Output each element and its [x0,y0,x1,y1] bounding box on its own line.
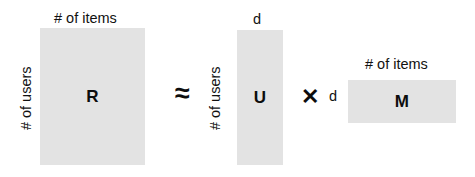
matrix-r-letter: R [86,88,98,105]
r-row-dimension-label: # of users [19,61,34,135]
m-column-dimension-label: # of items [365,57,428,72]
multiplication-icon: ✕ [301,86,319,108]
matrix-m-box: M [348,80,456,123]
matrix-factorization-diagram: # of items # of users R ≈ # of users d U… [0,0,475,177]
approximately-equal-icon: ≈ [175,80,190,107]
u-column-dimension-label: d [253,12,261,27]
matrix-m-letter: M [395,93,409,110]
u-row-dimension-label: # of users [208,61,223,135]
r-column-dimension-label: # of items [54,11,117,26]
matrix-u-letter: U [254,89,266,106]
matrix-r-box: R [40,28,145,165]
m-row-dimension-label: d [329,89,337,104]
matrix-u-box: U [237,30,283,165]
